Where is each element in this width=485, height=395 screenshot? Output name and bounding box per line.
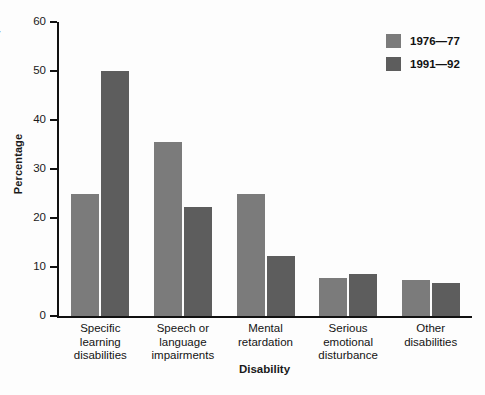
x-category-label-line: impairments [134, 349, 233, 363]
bar [267, 256, 295, 316]
y-tick-label: 50 [20, 65, 46, 77]
x-category-label-line: Other [381, 322, 480, 336]
legend-item: 1991—92 [386, 57, 484, 71]
legend-label: 1976—77 [410, 35, 460, 47]
legend-swatch [386, 57, 401, 71]
bar [184, 207, 212, 316]
bar [101, 71, 129, 316]
bar-group [154, 22, 212, 316]
y-tick-label: 20 [20, 212, 46, 224]
bar [71, 194, 99, 317]
bar [349, 274, 377, 316]
cropped-text-fragment-lower: · [0, 279, 5, 289]
y-tick-mark [50, 266, 57, 268]
bar [237, 194, 265, 317]
legend-label: 1991—92 [410, 58, 460, 70]
y-tick-label: 10 [20, 261, 46, 273]
y-tick-label: 40 [20, 114, 46, 126]
bar-group [319, 22, 377, 316]
x-category-label: Otherdisabilities [381, 322, 480, 349]
x-category-label-line: disabilities [381, 336, 480, 350]
legend-item: 1976—77 [386, 34, 484, 48]
bar [154, 142, 182, 316]
legend: 1976—771991—92 [386, 34, 484, 80]
bar [402, 280, 430, 316]
bar-chart: r · · Percentage 0102030405060 Specificl… [0, 0, 485, 395]
x-axis-title: Disability [57, 363, 472, 375]
x-category-label-line: disturbance [299, 349, 398, 363]
bar [432, 283, 460, 316]
y-tick-label: 60 [20, 16, 46, 28]
bar-group [71, 22, 129, 316]
y-tick-mark [50, 21, 57, 23]
y-tick-mark [50, 217, 57, 219]
bar-group [237, 22, 295, 316]
bar [319, 278, 347, 316]
x-axis-line [57, 316, 472, 318]
y-tick-label: 0 [20, 310, 46, 322]
y-tick-mark [50, 119, 57, 121]
cropped-text-fragment-top: r [0, 27, 8, 39]
y-tick-label: 30 [20, 163, 46, 175]
y-tick-mark [50, 168, 57, 170]
y-tick-mark [50, 315, 57, 317]
legend-swatch [386, 34, 401, 48]
y-tick-mark [50, 70, 57, 72]
cropped-text-fragment-lower-2: · [0, 296, 5, 306]
